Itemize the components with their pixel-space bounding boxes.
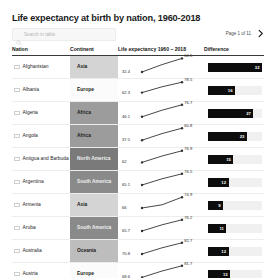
difference-bar: 9: [208, 201, 223, 211]
continent-badge: South America: [70, 171, 118, 193]
difference-track: 15: [208, 155, 262, 165]
table-row[interactable]: AustriaEurope68.681.713: [12, 263, 264, 278]
difference-bar: 12: [208, 178, 229, 188]
nation-cell: Algeria: [12, 110, 70, 116]
cell-life-expectancy: 37.560.8: [118, 125, 204, 148]
cell-life-expectancy: 46.176.7: [118, 102, 204, 125]
flag-argentina-icon: [14, 180, 20, 184]
cell-continent: Asia: [70, 194, 118, 217]
cell-nation: Antigua and Barbuda: [12, 148, 70, 171]
difference-track: 13: [208, 270, 262, 278]
sparkline-cell: 68.681.7: [118, 263, 204, 278]
table-row[interactable]: ArmeniaAsia6674.99: [12, 194, 264, 217]
table-row[interactable]: ArubaSouth America65.776.211: [12, 217, 264, 240]
difference-cell: 12: [204, 178, 264, 188]
sparkline: 68.681.7: [122, 263, 204, 278]
value-start-label: 62: [122, 160, 127, 165]
sparkline: 62.378.5: [122, 79, 204, 99]
cell-life-expectancy: 65.176.5: [118, 171, 204, 194]
nation-label: Angola: [23, 133, 38, 139]
cell-nation: Austria: [12, 263, 70, 278]
nation-cell: Aruba: [12, 225, 70, 231]
sparkline-cell: 46.176.7: [118, 102, 204, 124]
table-row[interactable]: ArgentinaSouth America65.176.512: [12, 171, 264, 194]
flag-australia-icon: [14, 249, 20, 253]
difference-value: 16: [228, 88, 233, 93]
nation-cell: Austria: [12, 271, 70, 277]
difference-value: 15: [226, 157, 231, 162]
continent-badge: Asia: [70, 56, 118, 78]
nation-cell: Argentina: [12, 179, 70, 185]
column-header-continent[interactable]: Continent: [70, 46, 118, 56]
value-start-label: 37.5: [122, 138, 130, 143]
sparkline: 37.560.8: [122, 125, 204, 145]
table-row[interactable]: AustraliaOceania70.882.712: [12, 240, 264, 263]
table-row[interactable]: AlbaniaEurope62.378.516: [12, 79, 264, 102]
flag-austria-icon: [14, 272, 20, 276]
pagination: Page 1 of 11: [226, 29, 264, 38]
sparkline-cell: 37.560.8: [118, 125, 204, 147]
difference-bar: 16: [208, 86, 235, 96]
continent-badge: North America: [70, 148, 118, 170]
nation-cell: Afghanistan: [12, 64, 70, 70]
table-body: AfghanistanAsia32.464.532AlbaniaEurope62…: [12, 56, 264, 278]
value-start-label: 70.8: [122, 252, 130, 257]
difference-track: 16: [208, 86, 262, 96]
cell-nation: Armenia: [12, 194, 70, 217]
difference-track: 11: [208, 224, 262, 234]
table-row[interactable]: AfghanistanAsia32.464.532: [12, 56, 264, 79]
cell-life-expectancy: 65.776.2: [118, 217, 204, 240]
nation-cell: Armenia: [12, 202, 70, 208]
sparkline-cell: 65.176.5: [118, 171, 204, 193]
difference-value: 11: [219, 226, 223, 231]
sparkline-cell: 62.378.5: [118, 79, 204, 101]
difference-cell: 27: [204, 109, 264, 119]
value-start-label: 65.7: [122, 229, 130, 234]
difference-cell: 13: [204, 270, 264, 278]
nation-label: Aruba: [23, 225, 36, 231]
nation-label: Australia: [23, 248, 42, 254]
cell-difference: 15: [204, 148, 264, 171]
cell-nation: Argentina: [12, 171, 70, 194]
search-input[interactable]: Search in table: [24, 32, 55, 37]
sparkline-cell: 6276.9: [118, 148, 204, 170]
table-row[interactable]: AngolaAfrica37.560.823: [12, 125, 264, 148]
difference-bar: 15: [208, 155, 233, 165]
value-end-label: 76.5: [184, 170, 192, 175]
table-row[interactable]: Antigua and BarbudaNorth America6276.915: [12, 148, 264, 171]
nation-label: Armenia: [23, 202, 41, 208]
column-header-nation[interactable]: Nation: [12, 46, 70, 56]
cell-life-expectancy: 68.681.7: [118, 263, 204, 278]
difference-bar: 12: [208, 247, 229, 257]
page-indicator: Page 1 of 11: [226, 31, 251, 36]
search-box[interactable]: Search in table: [12, 28, 116, 41]
value-end-label: 74.9: [184, 193, 192, 198]
difference-track: 32: [208, 63, 262, 73]
cell-life-expectancy: 6276.9: [118, 148, 204, 171]
cell-difference: 32: [204, 56, 264, 79]
nation-label: Algeria: [23, 110, 38, 116]
cell-continent: South America: [70, 171, 118, 194]
table-row[interactable]: AlgeriaAfrica46.176.727: [12, 102, 264, 125]
cell-difference: 16: [204, 79, 264, 102]
sparkline: 70.882.7: [122, 240, 204, 260]
search-icon: [16, 32, 22, 38]
cell-continent: Africa: [70, 102, 118, 125]
value-start-label: 46.1: [122, 115, 130, 120]
column-header-difference[interactable]: Difference: [204, 46, 264, 56]
cell-life-expectancy: 32.464.5: [118, 56, 204, 79]
sparkline-cell: 70.882.7: [118, 240, 204, 262]
sparkline: 32.464.5: [122, 56, 204, 76]
continent-badge: Europe: [70, 79, 118, 101]
continent-badge: Asia: [70, 194, 118, 216]
cell-continent: Africa: [70, 125, 118, 148]
value-start-label: 32.4: [122, 70, 130, 75]
cell-difference: 13: [204, 263, 264, 278]
sparkline-cell: 32.464.5: [118, 56, 204, 78]
value-start-label: 65.1: [122, 183, 130, 188]
chevron-right-icon[interactable]: [256, 29, 264, 38]
cell-continent: South America: [70, 217, 118, 240]
flag-aruba-icon: [14, 226, 20, 230]
cell-nation: Albania: [12, 79, 70, 102]
cell-nation: Angola: [12, 125, 70, 148]
